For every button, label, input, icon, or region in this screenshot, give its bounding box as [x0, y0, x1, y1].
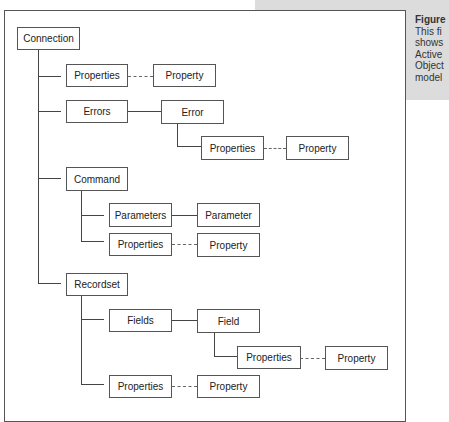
- connector: [177, 146, 201, 147]
- node-recordset: Recordset: [66, 273, 128, 296]
- node-properties: Properties: [237, 346, 301, 369]
- caption-line: Active: [415, 49, 446, 61]
- node-property: Property: [153, 64, 216, 87]
- connector: [38, 283, 61, 284]
- node-property: Property: [286, 136, 349, 160]
- connector: [177, 123, 178, 146]
- node-parameter: Parameter: [197, 203, 260, 227]
- dashed-connector: [172, 386, 197, 387]
- node-errors: Errors: [66, 100, 128, 123]
- dashed-connector: [300, 358, 325, 359]
- connector: [128, 111, 161, 112]
- node-property: Property: [325, 346, 388, 370]
- dashed-connector: [128, 76, 153, 77]
- node-connection: Connection: [17, 27, 80, 50]
- caption-line: Object: [415, 60, 446, 72]
- node-property: Property: [197, 375, 260, 398]
- caption-line: This fi: [415, 26, 446, 38]
- connector: [81, 319, 104, 320]
- node-error: Error: [161, 100, 224, 124]
- connector: [81, 384, 104, 385]
- node-properties: Properties: [109, 233, 172, 256]
- node-properties: Properties: [201, 136, 264, 160]
- node-properties: Properties: [66, 64, 128, 87]
- caption-title: Figure: [415, 14, 446, 26]
- node-properties: Properties: [109, 375, 172, 398]
- dashed-connector: [172, 244, 197, 245]
- node-command: Command: [66, 167, 128, 191]
- connector: [38, 178, 61, 179]
- connector: [214, 333, 215, 356]
- node-fields: Fields: [109, 309, 172, 332]
- node-property: Property: [197, 233, 260, 257]
- connector: [38, 76, 61, 77]
- connection-trunk: [38, 50, 39, 283]
- caption-line: shows: [415, 37, 446, 49]
- recordset-trunk: [81, 296, 82, 384]
- command-trunk: [81, 191, 82, 241]
- connector: [81, 241, 104, 242]
- connector: [81, 215, 104, 216]
- caption-line: model: [415, 72, 446, 84]
- figure-caption: Figure This fi shows Active Object model: [415, 14, 446, 83]
- connector: [214, 356, 237, 357]
- dashed-connector: [264, 148, 286, 149]
- node-parameters: Parameters: [109, 203, 172, 227]
- node-field: Field: [197, 309, 260, 333]
- connector: [172, 215, 197, 216]
- connector: [38, 111, 61, 112]
- connector: [172, 320, 197, 321]
